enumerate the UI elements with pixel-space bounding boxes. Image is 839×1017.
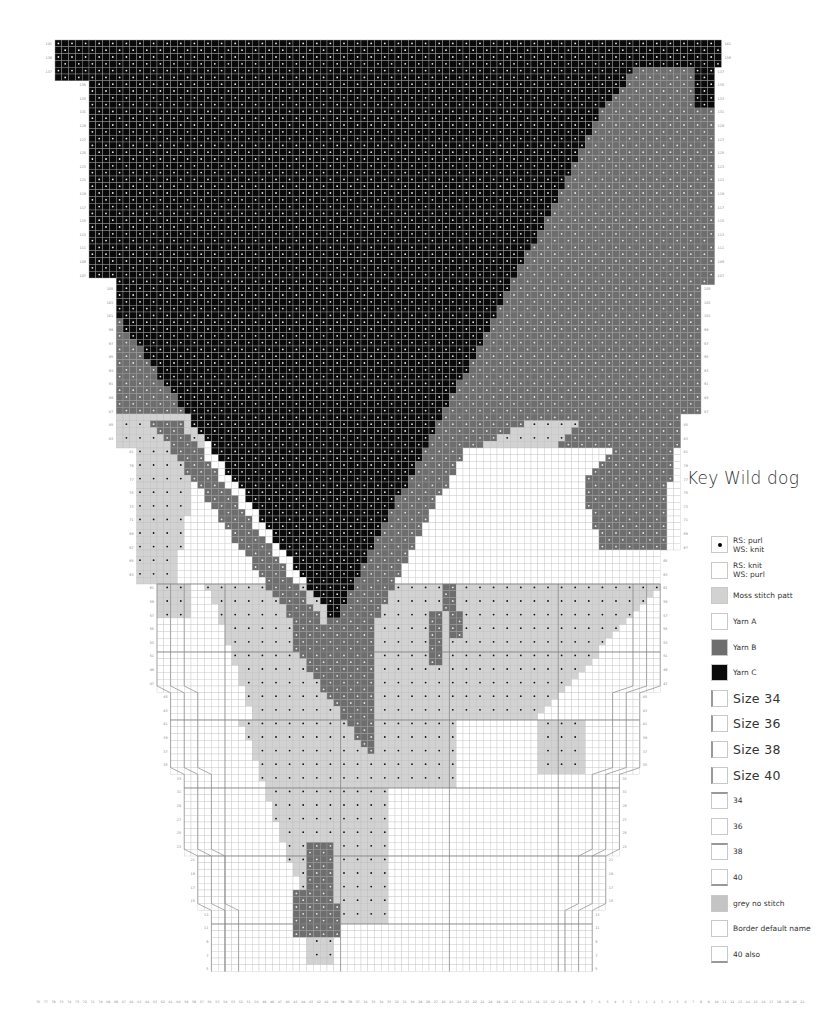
svg-text:49: 49: [262, 1000, 266, 1004]
svg-text:103: 103: [704, 301, 710, 305]
legend-item: Yarn C: [711, 660, 839, 686]
svg-text:50: 50: [254, 1000, 258, 1004]
svg-text:40: 40: [332, 1000, 336, 1004]
svg-text:55: 55: [215, 1000, 219, 1004]
svg-text:63: 63: [129, 573, 133, 577]
svg-text:31: 31: [403, 1000, 407, 1004]
svg-text:72: 72: [83, 1000, 87, 1004]
legend-swatch: [711, 767, 728, 784]
svg-text:51: 51: [663, 654, 667, 658]
svg-text:69: 69: [129, 532, 133, 536]
svg-text:7: 7: [206, 954, 208, 958]
svg-text:3: 3: [661, 1000, 663, 1004]
svg-text:43: 43: [163, 709, 167, 713]
svg-text:23: 23: [465, 1000, 469, 1004]
svg-text:79: 79: [129, 464, 133, 468]
svg-text:139: 139: [724, 56, 730, 60]
svg-text:13: 13: [595, 913, 599, 917]
svg-text:63: 63: [663, 573, 667, 577]
svg-text:15: 15: [754, 1000, 758, 1004]
svg-text:43: 43: [643, 709, 647, 713]
svg-text:33: 33: [387, 1000, 391, 1004]
svg-text:24: 24: [457, 1000, 461, 1004]
svg-text:21: 21: [800, 1000, 804, 1004]
svg-text:61: 61: [169, 1000, 173, 1004]
svg-text:52: 52: [239, 1000, 243, 1004]
svg-text:97: 97: [109, 342, 113, 346]
svg-text:141: 141: [46, 42, 52, 46]
svg-text:5: 5: [677, 1000, 679, 1004]
svg-text:25: 25: [622, 831, 626, 835]
svg-text:87: 87: [704, 410, 708, 414]
svg-text:7: 7: [595, 954, 597, 958]
svg-text:51: 51: [150, 654, 154, 658]
svg-text:28: 28: [426, 1000, 430, 1004]
svg-text:14: 14: [535, 1000, 539, 1004]
svg-text:33: 33: [177, 777, 181, 781]
legend-label: Yarn A: [733, 617, 756, 626]
svg-text:61: 61: [663, 586, 667, 590]
legend-swatch: [711, 895, 728, 912]
svg-text:35: 35: [163, 763, 167, 767]
svg-text:53: 53: [663, 641, 667, 645]
svg-text:5: 5: [206, 967, 208, 971]
svg-text:135: 135: [718, 83, 724, 87]
legend-label: 36: [733, 822, 743, 831]
svg-text:27: 27: [177, 818, 181, 822]
svg-text:21: 21: [481, 1000, 485, 1004]
svg-text:20: 20: [793, 1000, 797, 1004]
svg-text:39: 39: [643, 736, 647, 740]
svg-text:73: 73: [684, 505, 688, 509]
svg-text:65: 65: [129, 559, 133, 563]
svg-text:75: 75: [129, 491, 133, 495]
legend-item: 40 also: [711, 942, 839, 968]
legend-swatch: [711, 562, 728, 579]
svg-text:135: 135: [80, 83, 86, 87]
svg-text:73: 73: [75, 1000, 79, 1004]
svg-text:93: 93: [704, 369, 708, 373]
svg-text:13: 13: [543, 1000, 547, 1004]
svg-text:32: 32: [395, 1000, 399, 1004]
svg-text:75: 75: [684, 491, 688, 495]
legend-swatch: [711, 664, 728, 681]
svg-text:91: 91: [109, 382, 113, 386]
svg-text:1: 1: [638, 1000, 640, 1004]
svg-text:95: 95: [704, 355, 708, 359]
legend-item: Size 34: [711, 686, 839, 712]
svg-text:4: 4: [669, 1000, 671, 1004]
legend-item: grey no stitch: [711, 890, 839, 916]
svg-text:14: 14: [746, 1000, 750, 1004]
svg-text:47: 47: [278, 1000, 282, 1004]
svg-text:129: 129: [718, 124, 724, 128]
legend-swatch: [711, 946, 728, 963]
svg-text:77: 77: [44, 1000, 48, 1004]
key-title: Key Wild dog: [687, 468, 799, 488]
svg-text:111: 111: [718, 246, 724, 250]
svg-text:62: 62: [161, 1000, 165, 1004]
svg-text:76: 76: [36, 1000, 40, 1004]
svg-text:89: 89: [704, 396, 708, 400]
legend-swatch: [711, 587, 728, 604]
svg-text:7: 7: [692, 1000, 694, 1004]
svg-text:125: 125: [718, 151, 724, 155]
svg-text:81: 81: [684, 450, 688, 454]
legend-swatch: [711, 741, 728, 758]
svg-text:75: 75: [59, 1000, 63, 1004]
legend-item: Size 40: [711, 762, 839, 788]
svg-text:48: 48: [270, 1000, 274, 1004]
svg-text:15: 15: [190, 899, 194, 903]
svg-text:121: 121: [80, 178, 86, 182]
svg-text:107: 107: [80, 274, 86, 278]
legend-swatch: [711, 715, 728, 732]
svg-text:16: 16: [761, 1000, 765, 1004]
svg-text:6: 6: [599, 1000, 601, 1004]
legend-item: 40: [711, 865, 839, 891]
svg-text:37: 37: [356, 1000, 360, 1004]
svg-text:137: 137: [46, 70, 52, 74]
legend-swatch: [711, 818, 728, 835]
svg-text:29: 29: [622, 804, 626, 808]
svg-text:53: 53: [231, 1000, 235, 1004]
svg-text:117: 117: [80, 206, 86, 210]
svg-text:69: 69: [684, 532, 688, 536]
svg-text:131: 131: [80, 110, 86, 114]
